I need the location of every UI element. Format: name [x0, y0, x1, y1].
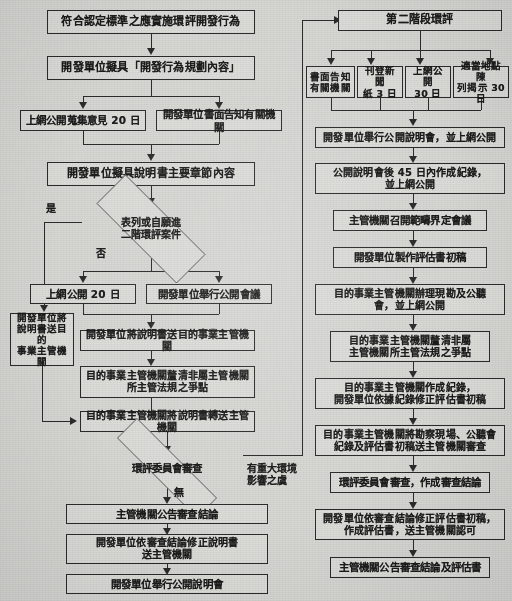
- branch-label-major-impact: 有重大環境 影響之虞: [247, 463, 297, 487]
- connector-major-up: [302, 20, 303, 456]
- decision-eia-committee-review: 環評委員會審查: [87, 448, 247, 488]
- connector-r2a-merge: [331, 98, 332, 110]
- arrowhead-to-n12: [163, 497, 171, 504]
- arrowhead-to-r11: [409, 465, 417, 472]
- node-written-notice-relevant-agencies: 書面告知 有關機關: [306, 66, 355, 98]
- connector-no-down: [151, 258, 152, 271]
- node-online-public-comment-20days: 上網公開蒐集意見 20 日: [20, 110, 146, 131]
- node-written-notice-agencies: 開發單位書面告知有關機關: [156, 110, 282, 131]
- connector-no-split-bar: [83, 271, 219, 272]
- arrowhead-to-r3: [409, 119, 417, 126]
- connector-n3-merge: [83, 131, 84, 144]
- arrowhead-to-r9: [409, 371, 417, 378]
- arrowhead-to-r13: [409, 550, 417, 557]
- arrowhead-to-r5: [409, 203, 417, 210]
- arrowhead-to-n10: [147, 359, 155, 366]
- node-scoping-meeting: 主管機關召開範疇界定會議: [333, 210, 487, 231]
- node-site-survey-and-hearing: 目的事業主管機關辦理現勘及公聽 會，並上網公開: [315, 284, 505, 315]
- node-prepare-draft-assessment-report: 開發單位製作評估書初稿: [333, 247, 487, 268]
- node-clarify-non-competent-regulations: 目的事業主管機關釐清非屬 主管機關所主管法規之爭點: [330, 331, 490, 362]
- arrowhead-to-n6: [79, 276, 87, 283]
- node-submit-statement-left-branch: 開發單位將 說明書送目的 事業主管機關: [10, 313, 74, 366]
- arrowhead-to-r2c: [416, 58, 424, 65]
- arrowhead-to-r10: [409, 418, 417, 425]
- connector-r1-split: [420, 31, 421, 50]
- node-hold-public-meeting: 開發單位舉行公開會議: [146, 284, 272, 304]
- node-newspaper-publication-3days: 刊登新聞 紙 3 日: [357, 66, 403, 98]
- node-record-within-45days: 公開說明會後 45 日內作成紀錄， 並上網公開: [315, 163, 505, 194]
- node-draft-statement-chapters: 開發單位擬具說明書主要章節內容: [47, 162, 255, 186]
- node-hold-public-briefing: 開發單位舉行公開說明會: [66, 574, 268, 594]
- arrowhead-to-r2a: [327, 58, 335, 65]
- node-submit-records-for-review: 目的事業主管機關將勘察現場、公聽會 紀錄及評估書初稿送主管機關審查: [315, 425, 505, 456]
- arrowhead-to-r6: [409, 240, 417, 247]
- decision-two-stage-eia: 表列或自願進 二階環評案件: [71, 200, 231, 258]
- node-online-publication-30days: 上網公開 30 日: [405, 66, 451, 98]
- node-submit-statement-to-agency: 開發單位將說明書送目的事業主管機關: [80, 330, 255, 351]
- branch-label-yes: 是: [46, 203, 56, 215]
- arrowhead-to-r12: [409, 502, 417, 509]
- flowchart-canvas: 符合認定標準之應實施環評開發行為 開發單位擬具「開發行為規劃內容」 上網公開蒐集…: [0, 0, 512, 601]
- node-online-public-20days: 上網公開 20 日: [30, 284, 136, 304]
- node-finalize-assessment-report: 開發單位依審查結論修正評估書初稿， 作成評估書，送主管機關認可: [315, 509, 505, 540]
- arrowhead-to-n7: [215, 276, 223, 283]
- node-revise-statement-per-conclusion: 開發單位依審查結論修正說明書 送主管機關: [66, 534, 268, 564]
- node-clarify-regulation-disputes: 目的事業主管機關釐清非屬主管機關 所主管法規之爭點: [80, 366, 255, 398]
- connector-r2c-merge: [428, 98, 429, 110]
- connector-r1-split-bar: [331, 50, 490, 51]
- decision-label: 表列或自願進 二階環評案件: [71, 200, 231, 258]
- connector-r2-merge-bar: [331, 110, 481, 111]
- node-qualifying-development-action: 符合認定標準之應實施環評開發行為: [47, 10, 255, 34]
- connector-major-out: [243, 455, 302, 456]
- connector-n6-merge: [83, 304, 84, 314]
- arrowhead-to-n3: [79, 102, 87, 109]
- decision-label-2: 環評委員會審查: [87, 448, 247, 488]
- node-prepare-development-plan: 開發單位擬具「開發行為規劃內容」: [47, 56, 255, 80]
- arrowhead-to-n5: [147, 154, 155, 161]
- connector-n8-down: [42, 366, 43, 421]
- connector-n8-to-n11: [42, 421, 72, 422]
- branch-label-none: 無: [174, 487, 184, 499]
- connector-n2-split: [151, 80, 152, 96]
- arrowhead-n1-n2: [147, 48, 155, 55]
- node-hold-briefing-and-publish: 開發單位舉行公開說明會，並上網公開: [315, 127, 505, 148]
- node-committee-review-conclusion: 環評委員會審查，作成審查結論: [330, 472, 490, 493]
- node-record-and-revise-draft: 目的事業主管機關作成紀錄， 開發單位依據紀錄修正評估書初稿: [315, 378, 505, 409]
- connector-r2b-merge: [380, 98, 381, 110]
- node-forward-statement-to-competent-authority: 目的事業主管機關將說明書轉送主管機關: [80, 411, 255, 432]
- arrowhead-to-r7: [409, 277, 417, 284]
- node-onsite-display-30days: 適當地點陳 列揭示 30 日: [453, 66, 509, 98]
- node-announce-conclusion-and-report: 主管機關公告審查結論及評估書: [330, 557, 490, 578]
- connector-split-bar-top: [83, 96, 219, 97]
- node-second-stage-eia: 第二階段環評: [338, 10, 502, 31]
- arrowhead-to-r4: [409, 156, 417, 163]
- branch-label-no: 否: [96, 248, 106, 260]
- connector-major-to-r1: [302, 20, 336, 21]
- node-announce-review-conclusion: 主管機關公告審查結論: [66, 504, 268, 524]
- arrowhead-to-r8: [409, 324, 417, 331]
- arrowhead-n8-to-n11: [70, 417, 77, 425]
- connector-n7-merge: [219, 304, 220, 314]
- arrowhead-to-r2b: [367, 58, 375, 65]
